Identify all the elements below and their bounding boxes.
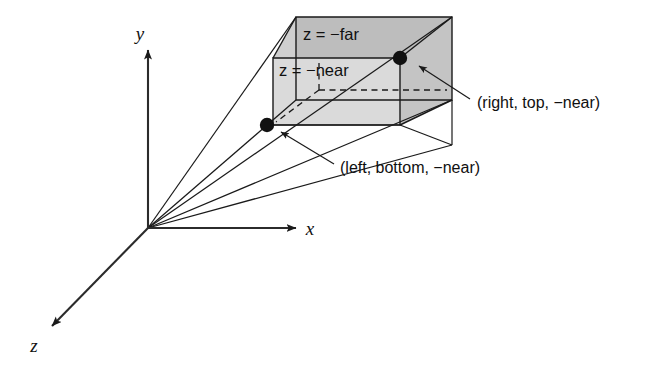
callout-right-top-near-label: (right, top, −near) — [477, 94, 600, 111]
z-axis-label: z — [29, 335, 38, 356]
ray-to-far-bottom-left — [148, 100, 296, 228]
marker-left-bottom-near — [260, 118, 274, 132]
diagram-canvas: y x z z = −far z = −near (right, top, −n… — [0, 0, 657, 369]
view-frustum-diagram: y x z z = −far z = −near (right, top, −n… — [0, 0, 657, 369]
leader-left-bottom-near — [281, 132, 334, 164]
y-axis-label: y — [134, 23, 145, 44]
coordinate-axes — [52, 50, 296, 326]
near-plane-label: z = −near — [279, 61, 349, 79]
far-plane-label: z = −far — [303, 25, 359, 43]
ray-to-lower-right — [148, 145, 452, 228]
marker-right-top-near — [393, 51, 407, 65]
z-axis-line — [52, 228, 148, 326]
x-axis-label: x — [305, 218, 315, 239]
lower-edge-right-extend — [400, 125, 452, 145]
callout-left-bottom-near-label: (left, bottom, −near) — [340, 159, 480, 176]
